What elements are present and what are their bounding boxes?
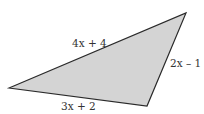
side-label-top: 4x + 4 [72,37,107,49]
side-label-bottom: 3x + 2 [61,100,96,112]
triangle [9,13,186,106]
side-label-right: 2x – 1 [170,57,201,69]
